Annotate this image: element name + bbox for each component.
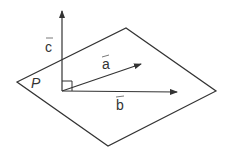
vector-b-label-group: b — [116, 96, 124, 113]
vector-b-label: b — [116, 97, 124, 113]
vector-b-arrow — [62, 91, 177, 92]
vector-a-label: a — [102, 56, 110, 72]
vector-c-label: c — [45, 39, 52, 55]
vector-a-label-group: a — [102, 55, 110, 72]
plane-label: P — [31, 75, 41, 91]
diagram-canvas: P a b c — [0, 0, 226, 156]
vector-c-label-group: c — [45, 38, 53, 55]
